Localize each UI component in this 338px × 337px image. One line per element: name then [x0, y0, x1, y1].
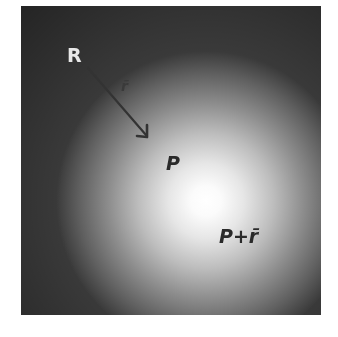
point-r-label: R — [67, 44, 82, 66]
point-p-plus-r-label: P+r̄ — [219, 225, 258, 247]
radial-gradient-figure: R r̄ P P+r̄ — [21, 6, 321, 315]
point-p-label: P — [166, 152, 180, 174]
vector-r-label: r̄ — [121, 78, 128, 94]
